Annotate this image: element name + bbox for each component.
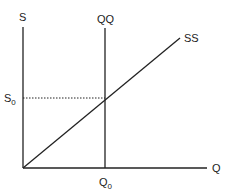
- q0-label: Q0: [99, 176, 113, 191]
- ss-line: [23, 38, 180, 168]
- s0-sub: 0: [11, 98, 16, 107]
- y-axis-label: S: [19, 11, 26, 23]
- s0-label: S0: [4, 92, 16, 107]
- supply-diagram: S Q QQ SS S0 Q0: [0, 0, 231, 191]
- qq-label: QQ: [97, 13, 115, 25]
- ss-label: SS: [184, 32, 199, 44]
- s0-base: S: [4, 92, 11, 104]
- x-axis-label: Q: [212, 162, 221, 174]
- q0-sub: 0: [108, 182, 113, 191]
